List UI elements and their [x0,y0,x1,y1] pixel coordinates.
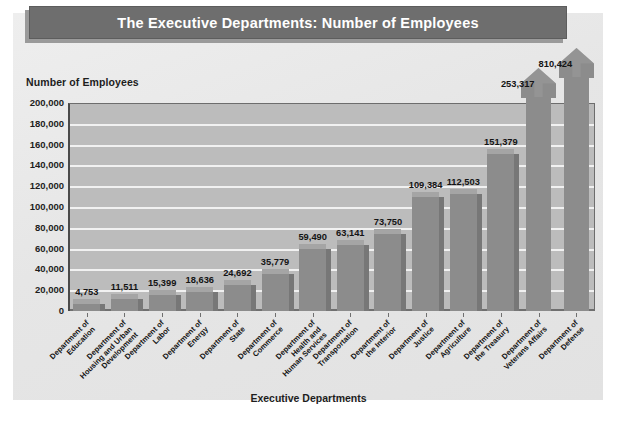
x-tick-mark [463,313,464,317]
x-tick-mark [124,313,125,317]
x-tick-mark [388,313,389,317]
x-axis-tick-labels: Department ofEducationDepartment ofHousi… [0,0,617,422]
x-tick-mark [313,313,314,317]
x-tick-mark [162,313,163,317]
x-tick-mark [576,313,577,317]
x-tick-mark [539,313,540,317]
chart-figure: The Executive Departments: Number of Emp… [0,0,617,422]
x-tick-label[interactable]: Department ofthe Interior [350,319,399,368]
x-tick-mark [350,313,351,317]
x-tick-mark [501,313,502,317]
x-axis-title: Executive Departments [0,392,617,404]
x-tick-mark [426,313,427,317]
x-tick-mark [275,313,276,317]
x-tick-mark [200,313,201,317]
x-tick-label[interactable]: Department ofJustice [387,319,436,368]
x-tick-mark [237,313,238,317]
x-tick-mark [87,313,88,317]
